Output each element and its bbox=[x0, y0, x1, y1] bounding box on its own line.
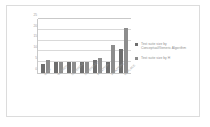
bar-group bbox=[41, 19, 50, 73]
legend-item[interactable]: Test suite size by H bbox=[135, 56, 197, 60]
legend-label: Test suite size by Conceptual/Generic Al… bbox=[141, 42, 197, 51]
chart-legend: Test suite size by Conceptual/Generic Al… bbox=[135, 42, 197, 65]
bar-series-1[interactable] bbox=[124, 28, 128, 73]
legend-item[interactable]: Test suite size by Conceptual/Generic Al… bbox=[135, 42, 197, 51]
y-axis-tick-label: 10 bbox=[33, 47, 37, 50]
bar-group bbox=[67, 19, 76, 73]
x-axis-category-labels: MUATCONREDSCHEDULESCHEDULE2PRINTTOKPRINT… bbox=[37, 74, 131, 92]
bar-chart: 0510152025 MUATCONREDSCHEDULESCHEDULE2PR… bbox=[21, 15, 133, 92]
legend-swatch-series-1 bbox=[135, 57, 138, 60]
chart-frame: 0510152025 MUATCONREDSCHEDULESCHEDULE2PR… bbox=[6, 5, 200, 117]
y-axis-tick-label: 20 bbox=[33, 25, 37, 28]
y-axis-tick-label: 15 bbox=[33, 36, 37, 39]
legend-label: Test suite size by H bbox=[141, 56, 170, 60]
y-axis-tick-label: 25 bbox=[33, 14, 37, 17]
y-axis-tick-label: 0 bbox=[35, 68, 37, 71]
legend-swatch-series-0 bbox=[135, 43, 138, 46]
bar-group bbox=[54, 19, 63, 73]
y-axis-tick-label: 5 bbox=[35, 57, 37, 60]
